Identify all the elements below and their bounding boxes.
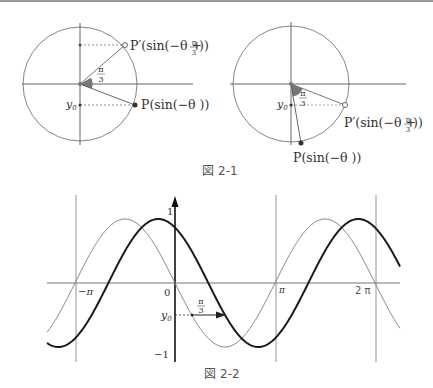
unit-circle-left: P′(sin(−θ + π 3 )) P(sin(−θ )) π 3 y0	[22, 23, 209, 145]
shift-label: π 3	[197, 297, 205, 315]
figure-2-2-caption: 図 2-2	[204, 367, 239, 381]
figure-canvas: P′(sin(−θ + π 3 )) P(sin(−θ )) π 3 y0 π	[0, 0, 433, 388]
p-prime-label-close: ))	[199, 38, 209, 53]
figure-2-1-caption: 図 2-1	[202, 164, 237, 178]
p-label: P(sin(−θ ))	[141, 97, 209, 112]
svg-text:3: 3	[198, 306, 203, 315]
y0-label: y0	[160, 309, 172, 323]
y0-label: y0	[65, 98, 77, 112]
y0-dot	[290, 104, 293, 107]
p-label: P(sin(−θ ))	[293, 150, 361, 165]
unit-circle-right: π 3 y0 P′(sin(−θ + π 3 )) P(sin(−θ ))	[230, 22, 423, 165]
svg-text:π: π	[406, 116, 411, 124]
svg-text:3: 3	[406, 126, 410, 134]
y-min-label: −1	[154, 349, 169, 360]
origin-label: 0	[164, 287, 170, 298]
svg-text:3: 3	[98, 75, 103, 84]
svg-text:π: π	[98, 65, 103, 74]
two-pi-label: 2 π	[355, 285, 371, 296]
p-prime-proj-dot	[79, 44, 82, 47]
radius-p	[80, 84, 135, 105]
svg-text:π: π	[192, 39, 197, 47]
sine-graph: π 3 1 −1 0 −π π 2 π y0	[47, 195, 400, 362]
y0-dot	[79, 104, 82, 107]
pi-label: π	[278, 285, 286, 295]
svg-text:3: 3	[300, 99, 305, 108]
y0-label: y0	[276, 98, 288, 112]
angle-wedge	[80, 78, 93, 89]
p-point	[299, 141, 304, 146]
p-prime-point	[123, 43, 128, 48]
p-prime-label-close: ))	[413, 115, 423, 130]
p-point	[133, 103, 138, 108]
svg-text:π: π	[198, 297, 203, 306]
radius-p-prime	[291, 84, 345, 105]
svg-text:π: π	[300, 89, 305, 98]
angle-label: π 3	[299, 89, 307, 108]
y-max-label: 1	[167, 206, 173, 217]
origin-dot	[78, 82, 82, 86]
p-prime-point	[343, 103, 348, 108]
neg-pi-label: −π	[78, 286, 93, 297]
origin-dot	[289, 82, 293, 86]
svg-text:3: 3	[192, 49, 196, 57]
angle-label: π 3	[97, 65, 105, 84]
